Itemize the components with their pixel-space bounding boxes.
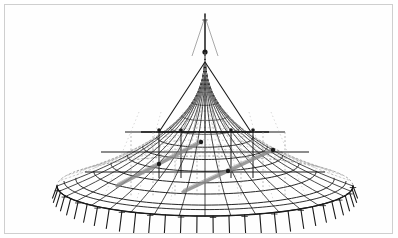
support-leg [164, 215, 165, 237]
radial-rib [205, 52, 256, 214]
strut-node [157, 162, 161, 166]
support-leg [94, 207, 97, 226]
support-leg [332, 201, 336, 218]
support-leg [288, 211, 291, 231]
strut-node [199, 140, 203, 144]
figure-root: Tent / dome structural wireframe [0, 0, 398, 238]
construction-line [271, 112, 307, 200]
support-leg [84, 204, 88, 222]
strut-node [271, 148, 275, 152]
support-leg [56, 192, 60, 206]
beam-node [179, 128, 183, 132]
support-leg [260, 214, 262, 235]
support-leg [345, 196, 349, 211]
support-leg [323, 204, 327, 222]
beam-node [157, 128, 161, 132]
strut-node [226, 169, 230, 173]
support-leg [274, 213, 276, 234]
wireframe-geometry [53, 14, 358, 238]
beam-node [251, 128, 255, 132]
support-leg [312, 207, 315, 226]
support-leg [106, 209, 109, 229]
support-leg [350, 192, 354, 206]
support-leg [245, 215, 246, 237]
apex-guy-wire [192, 17, 205, 56]
apex-guy-wire [205, 17, 218, 56]
support-leg [119, 211, 122, 231]
support-leg [60, 196, 64, 211]
support-leg [339, 199, 343, 215]
support-leg [134, 213, 136, 234]
radial-rib [205, 52, 353, 186]
radial-rib [154, 52, 205, 214]
support-leg [229, 216, 230, 238]
support-leg [74, 201, 78, 218]
support-leg [149, 214, 151, 235]
support-leg [53, 186, 58, 198]
support-leg [301, 209, 304, 229]
support-leg [67, 199, 71, 215]
support-leg [180, 216, 181, 238]
construction-line [103, 112, 139, 200]
structure-drawing [0, 0, 398, 238]
beam-node [229, 128, 233, 132]
